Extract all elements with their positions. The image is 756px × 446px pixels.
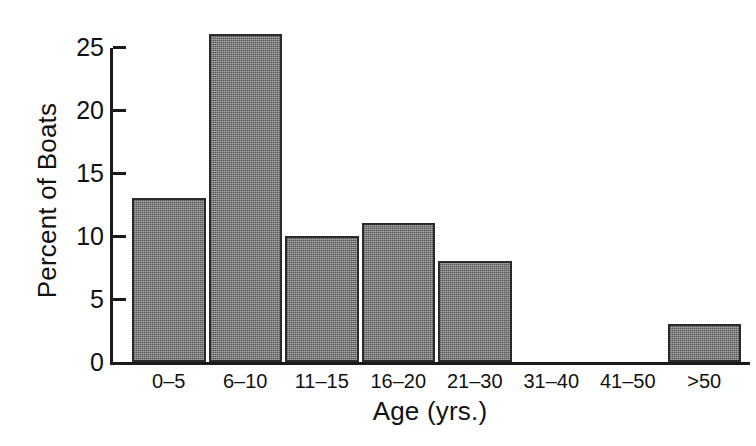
bar xyxy=(438,261,512,362)
x-tick-label: 11–15 xyxy=(285,370,359,392)
y-tick-label: 5 xyxy=(90,286,104,311)
bars-layer xyxy=(110,30,750,362)
plot-area: 0510152025 0–56–1011–1516–2021–3031–4041… xyxy=(110,30,750,364)
y-tick-label: 25 xyxy=(76,34,104,59)
y-tick-label: 10 xyxy=(76,223,104,248)
x-tick-label: 0–5 xyxy=(132,370,206,392)
x-tick-label: 16–20 xyxy=(362,370,436,392)
bar xyxy=(362,223,436,362)
y-tick-label: 15 xyxy=(76,160,104,185)
bar xyxy=(132,198,206,362)
bar xyxy=(285,236,359,362)
y-tick-label: 0 xyxy=(90,350,104,375)
x-tick-label: 21–30 xyxy=(438,370,512,392)
bar-chart: Percent of Boats 0510152025 0–56–1011–15… xyxy=(0,0,756,446)
x-tick-label: 6–10 xyxy=(209,370,283,392)
x-tick-label: 31–40 xyxy=(515,370,589,392)
bar xyxy=(209,34,283,362)
x-axis-title: Age (yrs.) xyxy=(110,396,750,427)
bar xyxy=(668,324,742,362)
y-tick-label: 20 xyxy=(76,97,104,122)
x-tick-label: >50 xyxy=(668,370,742,392)
x-axis-line xyxy=(110,362,750,365)
x-tick-label: 41–50 xyxy=(591,370,665,392)
y-axis-title: Percent of Boats xyxy=(32,51,63,351)
